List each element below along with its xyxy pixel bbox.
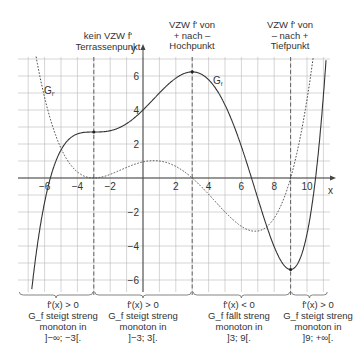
interval-block-1: f'(x) > 0 G_f steigt streng monoton in ]… [22,299,104,343]
svg-text:4: 4 [206,181,212,192]
monotony-text: monoton in [198,321,280,332]
annotation-terrace-point: kein VZW f' Terrassenpunkt [63,31,153,52]
svg-text:−4: −4 [128,241,140,252]
monotony-text: monoton in [22,321,104,332]
interval-block-4: f'(x) > 0 G_f steigt streng monoton in ]… [277,299,359,343]
svg-text:−2: −2 [128,207,140,218]
annotation-minimum: VZW f' von – nach + Tiefpunkt [245,20,335,52]
x-axis-label: x [328,185,333,196]
interval-text: ]−∞; −3[. [22,332,104,343]
svg-text:−6: −6 [128,275,140,286]
monotony-text: G_f fällt streng [198,310,280,321]
function-curve-gf [32,60,326,289]
monotony-text: G_f steigt streng [101,310,185,321]
annotation-line: Terrassenpunkt [63,42,153,53]
interval-text: ]−3; 3[. [101,332,185,343]
interval-text: ]9; +∞[. [277,332,359,343]
derivative-sign: f'(x) > 0 [22,299,104,310]
interval-braces [19,292,327,298]
annotation-maximum: VZW f' von + nach – Hochpunkt [147,20,237,52]
derivative-sign: f'(x) > 0 [277,299,359,310]
svg-text:−2: −2 [104,181,116,192]
monotony-text: monoton in [101,321,185,332]
svg-text:6: 6 [239,181,245,192]
annotation-line: VZW f' von [245,20,335,31]
annotation-line: VZW f' von [147,20,237,31]
derivative-sign: f'(x) < 0 [198,299,280,310]
svg-text:10: 10 [301,181,313,192]
gf-label: Gf [213,75,223,87]
grid [18,57,330,292]
monotony-text: G_f steigt streng [277,310,359,321]
svg-text:2: 2 [173,181,179,192]
svg-text:6: 6 [133,71,139,82]
svg-text:2: 2 [133,139,139,150]
annotation-line: kein VZW f' [63,31,153,42]
svg-text:8: 8 [271,181,277,192]
interval-text: ]3; 9[. [198,332,280,343]
monotony-text: monoton in [277,321,359,332]
monotony-text: G_f steigt streng [22,310,104,321]
svg-text:−4: −4 [72,181,84,192]
annotation-line: Tiefpunkt [245,41,335,52]
gf-prime-label: Gf' [44,85,55,97]
interval-block-3: f'(x) < 0 G_f fällt streng monoton in ]3… [198,299,280,343]
interval-block-2: f'(x) > 0 G_f steigt streng monoton in ]… [101,299,185,343]
axes [18,44,336,292]
annotation-line: Hochpunkt [147,41,237,52]
derivative-sign: f'(x) > 0 [101,299,185,310]
